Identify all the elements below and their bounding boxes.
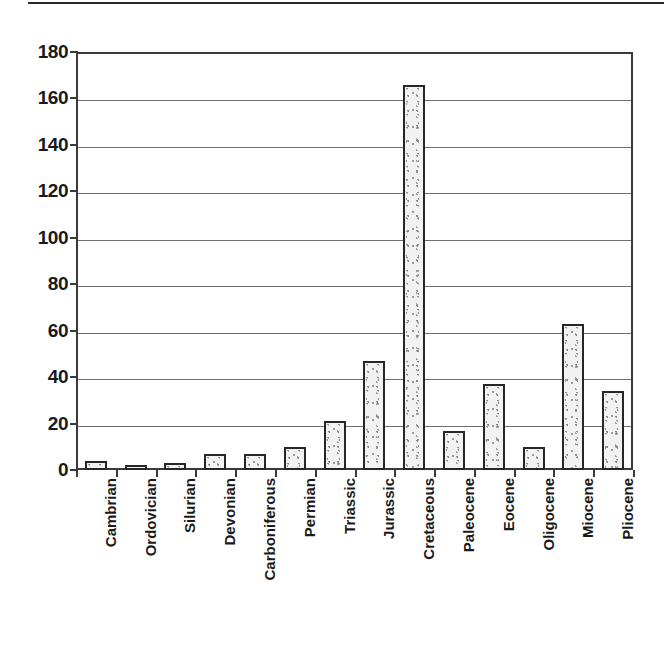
x-axis-label: Cretaceous <box>420 478 437 560</box>
bar <box>204 454 226 470</box>
bar <box>602 391 624 470</box>
bar <box>164 463 186 470</box>
bar <box>244 454 266 470</box>
x-axis-label-text: Oligocene <box>540 478 557 551</box>
x-tick-mark <box>195 470 197 477</box>
x-tick-mark <box>394 470 396 477</box>
x-axis-label: Silurian <box>181 478 198 533</box>
bar <box>324 421 346 470</box>
x-tick-mark <box>553 470 555 477</box>
x-axis-label: Pliocene <box>619 478 636 540</box>
x-tick-mark <box>434 470 436 477</box>
x-axis-label: Eocene <box>500 478 517 531</box>
x-axis-label: Cambrian <box>102 478 119 547</box>
x-axis-label-text: Carboniferous <box>261 478 278 581</box>
x-axis-label-text: Cambrian <box>102 478 119 547</box>
bar <box>443 431 465 470</box>
x-tick-mark <box>474 470 476 477</box>
bar-chart: 020406080100120140160180 CambrianOrdovic… <box>0 0 668 657</box>
x-axis-label-text: Paleocene <box>460 478 477 552</box>
x-axis-label-text: Permian <box>301 478 318 537</box>
bar <box>284 447 306 470</box>
x-tick-mark <box>355 470 357 477</box>
x-axis-label: Triassic <box>341 478 358 534</box>
y-tick-marks-group <box>0 52 86 470</box>
x-axis-label: Permian <box>301 478 318 537</box>
x-axis-label: Jurassic <box>380 478 397 539</box>
x-axis-label: Miocene <box>579 478 596 538</box>
x-axis-label-text: Silurian <box>181 478 198 533</box>
x-axis-label: Carboniferous <box>261 478 278 581</box>
x-axis-label-text: Jurassic <box>380 478 397 539</box>
x-tick-mark <box>633 470 635 477</box>
bar <box>403 85 425 470</box>
x-axis-label: Paleocene <box>460 478 477 552</box>
x-axis-labels-group: CambrianOrdovicianSilurianDevonianCarbon… <box>76 478 633 638</box>
x-axis-label-text: Eocene <box>500 478 517 531</box>
bar <box>85 461 107 470</box>
bar <box>483 384 505 470</box>
x-tick-mark <box>275 470 277 477</box>
x-tick-mark <box>315 470 317 477</box>
x-tick-mark <box>76 470 78 477</box>
x-axis-label-text: Ordovician <box>142 478 159 556</box>
x-axis-label: Ordovician <box>142 478 159 556</box>
x-tick-mark <box>156 470 158 477</box>
x-axis-label-text: Triassic <box>341 478 358 534</box>
x-axis-label-text: Devonian <box>221 478 238 546</box>
x-tick-mark <box>116 470 118 477</box>
x-axis-label-text: Cretaceous <box>420 478 437 560</box>
x-tick-mark <box>514 470 516 477</box>
bars-group <box>76 52 633 470</box>
x-tick-mark <box>593 470 595 477</box>
bar <box>562 324 584 470</box>
x-axis-label: Oligocene <box>540 478 557 551</box>
x-tick-marks-group <box>76 470 633 478</box>
x-axis-label-text: Miocene <box>579 478 596 538</box>
x-axis-label: Devonian <box>221 478 238 546</box>
bar <box>363 361 385 470</box>
bar <box>523 447 545 470</box>
x-axis-label-text: Pliocene <box>619 478 636 540</box>
x-tick-mark <box>235 470 237 477</box>
chart-page: 020406080100120140160180 CambrianOrdovic… <box>0 0 668 657</box>
